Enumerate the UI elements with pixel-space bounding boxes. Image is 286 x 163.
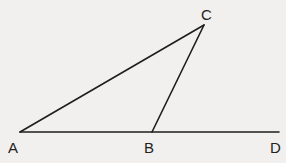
segment-bc — [152, 25, 204, 132]
segment-ac — [20, 25, 204, 132]
label-a: A — [8, 139, 18, 156]
label-b: B — [144, 139, 154, 156]
geometry-diagram: C A B D — [0, 0, 286, 163]
label-d: D — [270, 139, 281, 156]
label-c: C — [201, 6, 212, 23]
